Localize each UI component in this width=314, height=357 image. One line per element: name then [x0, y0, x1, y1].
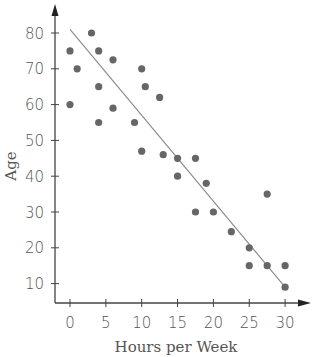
x-axis-arrow-icon	[298, 300, 311, 307]
data-point	[174, 155, 181, 162]
y-tick-label: 20	[25, 239, 44, 257]
x-axis-label: Hours per Week	[115, 338, 239, 356]
data-point	[131, 119, 138, 126]
data-point	[210, 208, 217, 215]
data-point	[246, 244, 253, 251]
data-point	[156, 94, 163, 101]
data-point	[264, 262, 271, 269]
x-tick-label: 15	[168, 314, 187, 332]
x-tick-label: 0	[65, 314, 75, 332]
y-tick-label: 60	[25, 96, 44, 114]
x-axis-ticks: 051015202530	[65, 299, 294, 332]
data-point	[142, 83, 149, 90]
data-point	[66, 101, 73, 108]
data-point	[246, 262, 253, 269]
x-tick-label: 25	[240, 314, 259, 332]
data-point	[95, 83, 102, 90]
y-axis-arrow-icon	[52, 4, 59, 16]
y-tick-label: 10	[25, 275, 44, 293]
x-tick-label: 30	[276, 314, 295, 332]
data-point	[192, 208, 199, 215]
data-point	[174, 173, 181, 180]
data-point	[88, 29, 95, 36]
data-point	[228, 228, 235, 235]
data-point	[138, 65, 145, 72]
scatter-chart: 1020304050607080 051015202530 Hours per …	[0, 0, 314, 357]
data-point	[192, 155, 199, 162]
y-tick-label: 80	[25, 25, 44, 43]
data-point	[160, 151, 167, 158]
data-point	[109, 56, 116, 63]
x-tick-label: 5	[101, 314, 111, 332]
data-point	[282, 284, 289, 291]
y-axis-label: Age	[2, 151, 20, 181]
axes	[52, 4, 312, 307]
data-point	[95, 119, 102, 126]
data-point	[66, 47, 73, 54]
x-tick-label: 20	[204, 314, 223, 332]
data-point	[74, 65, 81, 72]
y-tick-label: 30	[25, 204, 44, 222]
data-point	[203, 180, 210, 187]
data-point	[282, 262, 289, 269]
data-point	[138, 148, 145, 155]
x-tick-label: 10	[132, 314, 151, 332]
y-tick-label: 70	[25, 60, 44, 78]
y-tick-label: 50	[25, 132, 44, 150]
data-point	[109, 105, 116, 112]
data-point	[95, 47, 102, 54]
y-axis-ticks: 1020304050607080	[25, 25, 59, 294]
data-point	[264, 191, 271, 198]
y-tick-label: 40	[25, 168, 44, 186]
